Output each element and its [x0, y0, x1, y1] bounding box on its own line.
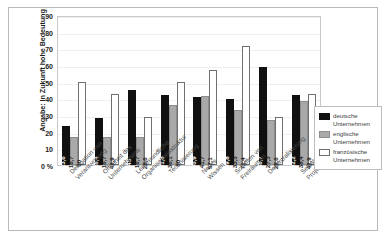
bar-value-label: 40,9 [191, 156, 197, 168]
bar[interactable]: 41,7 [201, 96, 209, 166]
bar-value-label: 42,2 [289, 156, 295, 168]
legend-label: deutsche Unternehmen [333, 112, 378, 128]
legend-item: englische Unternehmen [318, 130, 378, 146]
y-axis-tick: 30 [45, 113, 53, 120]
legend-label: englische Unternehmen [333, 130, 378, 146]
bar-group: 23,616,750 [58, 17, 91, 165]
legend-item: französische Unternehmen [318, 148, 378, 164]
bar[interactable]: 39,8 [226, 99, 234, 165]
y-axis-tick: 60 [45, 63, 53, 70]
legend-label: französische Unternehmen [333, 148, 378, 164]
y-axis-tick: 80 [45, 29, 53, 36]
y-axis-ticks: 0 %102030405060708090 [31, 16, 55, 166]
chart-legend: deutsche Unternehmen englische Unternehm… [314, 106, 382, 170]
y-axis-tick: 10 [45, 146, 53, 153]
bar[interactable]: 40,9 [193, 97, 201, 165]
y-axis-tick: 70 [45, 46, 53, 53]
y-axis-tick: 0 % [41, 163, 53, 170]
bar-value-label: 23,6 [60, 156, 66, 168]
y-axis-tick: 20 [45, 129, 53, 136]
bar-group: 39,833,371,4 [222, 17, 255, 165]
bar[interactable]: 57,1 [209, 70, 217, 165]
y-axis-tick: 90 [45, 13, 53, 20]
y-axis-tick: 50 [45, 79, 53, 86]
legend-swatch-englische-icon [319, 131, 330, 138]
y-axis-tick: 40 [45, 96, 53, 103]
legend-item: deutsche Unternehmen [318, 112, 378, 128]
x-axis-category-labels: Delegation vonVerantwortungOffenheit des… [57, 168, 321, 230]
chart-frame: Angabe: In Zukunft hohe Bedeutung 0 %102… [8, 7, 378, 231]
legend-swatch-deutsche-icon [319, 113, 330, 120]
bar[interactable]: 38,4 [300, 101, 308, 165]
bar[interactable]: 71,4 [242, 46, 250, 165]
legend-swatch-franzoesische-icon [319, 149, 330, 156]
